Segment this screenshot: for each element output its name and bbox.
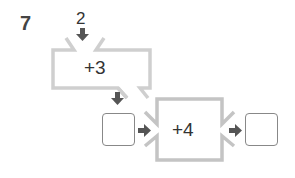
arrow-right-icon [229,124,242,137]
arrow-down-icon [76,28,89,41]
arrow-right-icon [138,124,151,137]
answer-box-2[interactable] [245,113,278,146]
diagram-lines [0,0,295,178]
answer-box-1[interactable] [102,113,135,146]
machine-plus4-label: +4 [172,119,194,141]
machine-plus3-label: +3 [84,57,106,79]
